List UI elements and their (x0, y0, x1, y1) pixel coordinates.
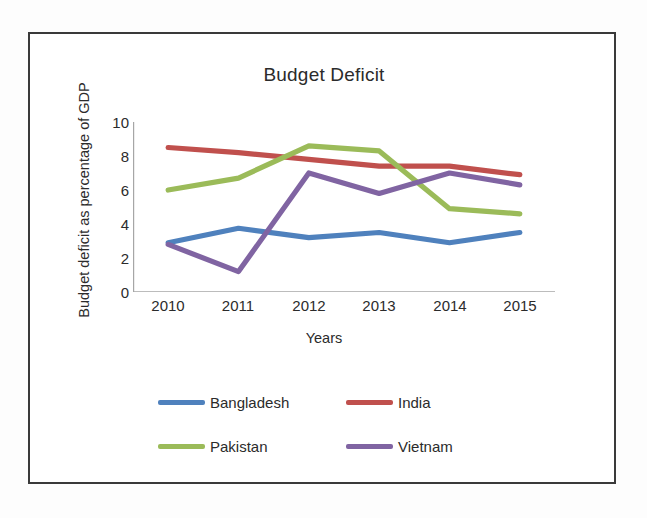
series-line-vietnam (168, 173, 520, 272)
legend-item-label: Vietnam (398, 438, 453, 455)
x-tick-label: 2015 (490, 298, 550, 313)
x-axis-title: Years (30, 330, 618, 346)
legend-item-label: Pakistan (210, 438, 268, 455)
legend-item-label: India (398, 394, 431, 411)
legend-swatch-icon (346, 400, 393, 405)
series-line-pakistan (168, 146, 520, 214)
legend-swatch-icon (346, 444, 393, 449)
chart-frame: Budget Deficit Budget deficit as percent… (28, 32, 616, 484)
legend-item-vietnam[interactable]: Vietnam (346, 436, 453, 456)
x-tick-label: 2012 (279, 298, 339, 313)
legend-item-label: Bangladesh (210, 394, 289, 411)
legend-item-pakistan[interactable]: Pakistan (158, 436, 268, 456)
line-chart-svg (133, 122, 555, 292)
scanned-chart-page: Budget Deficit Budget deficit as percent… (0, 0, 647, 518)
x-tick-label: 2013 (349, 298, 409, 313)
series-line-india (168, 148, 520, 175)
legend-item-bangladesh[interactable]: Bangladesh (158, 392, 289, 412)
y-tick-label: 10 (95, 115, 129, 130)
x-tick-label: 2011 (208, 298, 268, 313)
page-title: Budget Deficit (30, 64, 618, 86)
plot-area (133, 122, 555, 292)
legend-swatch-icon (158, 400, 205, 405)
legend-swatch-icon (158, 444, 205, 449)
y-tick-label: 6 (95, 183, 129, 198)
x-axis-tick-labels: 2010 2011 2012 2013 2014 2015 (133, 298, 555, 320)
y-tick-label: 4 (95, 217, 129, 232)
y-tick-label: 0 (95, 285, 129, 300)
y-axis-tick-labels: 10 8 6 4 2 0 (87, 122, 129, 292)
x-tick-label: 2010 (138, 298, 198, 313)
y-tick-label: 8 (95, 149, 129, 164)
legend: Bangladesh India Pakistan Vietnam (158, 392, 498, 472)
series-line-bangladesh (168, 228, 520, 242)
legend-item-india[interactable]: India (346, 392, 431, 412)
x-tick-label: 2014 (420, 298, 480, 313)
y-tick-label: 2 (95, 251, 129, 266)
